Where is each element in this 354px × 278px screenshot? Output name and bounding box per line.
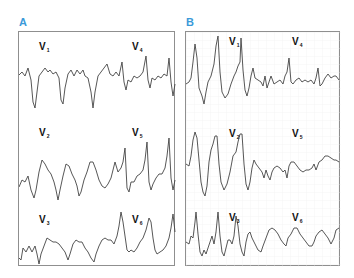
ecg-panel-b: V1 V4 V2 V5 V3 V6 xyxy=(185,31,340,266)
lead-label-v5: V5 xyxy=(132,128,142,141)
ecg-grid-b xyxy=(186,32,341,267)
lead-label-v3: V3 xyxy=(39,215,49,228)
lead-label-v1: V1 xyxy=(229,37,239,50)
lead-label-v5: V5 xyxy=(292,129,302,142)
lead-label-v4: V4 xyxy=(292,37,302,50)
lead-label-v2: V2 xyxy=(229,129,239,142)
ecg-traces-a xyxy=(19,32,176,267)
panel-b-label: B xyxy=(186,17,194,28)
lead-label-v6: V6 xyxy=(292,213,302,226)
lead-label-v6: V6 xyxy=(132,215,142,228)
lead-label-v2: V2 xyxy=(39,128,49,141)
ecg-traces-b xyxy=(186,32,341,267)
lead-label-v3: V3 xyxy=(229,213,239,226)
lead-label-v1: V1 xyxy=(39,42,49,55)
lead-label-v4: V4 xyxy=(132,42,142,55)
panel-a-label: A xyxy=(19,17,27,28)
ecg-panel-a: V1 V4 V2 V5 V3 V6 xyxy=(18,31,175,266)
